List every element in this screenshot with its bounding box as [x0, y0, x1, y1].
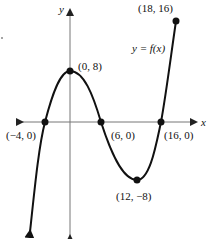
x-axis-label: x	[200, 116, 206, 128]
label-neg4-0: (−4, 0)	[6, 129, 36, 142]
point-18-16	[173, 18, 180, 25]
point-12-neg8	[134, 177, 141, 184]
label-12-neg8: (12, −8)	[116, 190, 152, 203]
point-6-0	[98, 119, 105, 126]
point-16-0	[158, 119, 165, 126]
point-neg4-0	[42, 119, 49, 126]
label-18-16: (18, 16)	[138, 2, 173, 15]
function-graph: x y (−4, 0) (0, 8) (6, 0) (12, −8) (16, …	[0, 0, 213, 239]
point-0-8	[67, 68, 74, 75]
label-6-0: (6, 0)	[111, 129, 135, 142]
label-0-8: (0, 8)	[78, 60, 102, 73]
label-16-0: (16, 0)	[164, 129, 194, 142]
y-axis-label: y	[58, 3, 64, 15]
curve-label: y = f(x)	[131, 42, 165, 55]
stray-mark	[1, 37, 3, 39]
